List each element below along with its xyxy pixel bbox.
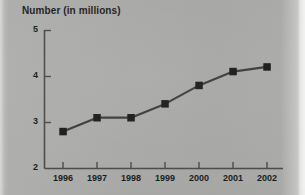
y-tick-label-3: 3 [24,116,38,126]
data-point-2000 [195,82,203,90]
data-series-markers [59,63,270,135]
data-point-2002 [263,63,271,70]
x-tick-label-1996: 1996 [46,173,80,183]
data-point-1997 [93,114,101,122]
x-tick-label-1999: 1999 [148,173,182,183]
x-tick-label-2002: 2002 [250,173,284,183]
line-chart-plot [0,0,305,195]
x-tick-label-1998: 1998 [114,173,148,183]
chart-screenshot: Number (in millions) 5 4 3 2 1996 1997 1… [0,0,305,195]
data-point-1999 [161,100,169,108]
x-tick-label-2000: 2000 [182,173,216,183]
data-point-2001 [229,68,237,76]
x-tick-label-2001: 2001 [216,173,250,183]
data-point-1998 [127,114,135,122]
data-series-line [63,67,267,132]
y-tick-label-5: 5 [24,24,38,34]
y-tick-label-4: 4 [24,70,38,80]
x-tick-label-1997: 1997 [80,173,114,183]
data-point-1996 [59,128,67,136]
y-tick-label-2: 2 [24,162,38,172]
